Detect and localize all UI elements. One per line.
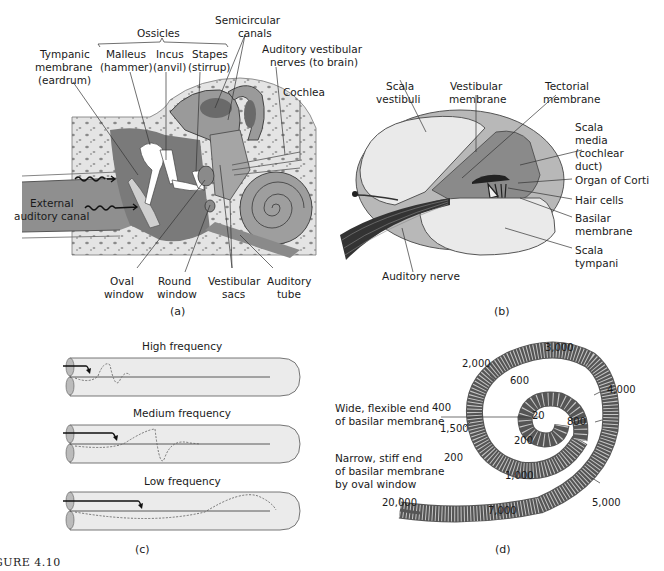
- label-scala-tympani-1: Scala: [575, 244, 603, 256]
- label-auditory-tube-2: tube: [277, 288, 301, 300]
- freq-800: 800: [567, 416, 586, 428]
- freq-400: 400: [432, 402, 451, 414]
- label-tympanic-2: membrane: [35, 61, 92, 73]
- label-malleus-2: (hammer): [100, 61, 153, 73]
- label-stapes-1: Stapes: [192, 48, 228, 60]
- label-auditory-nerve: Auditory nerve: [382, 270, 460, 282]
- label-low-frequency: Low frequency: [144, 475, 221, 487]
- label-medium-frequency: Medium frequency: [133, 407, 231, 419]
- label-vestibular-membrane-1: Vestibular: [450, 80, 502, 92]
- label-round-window-2: window: [157, 288, 197, 300]
- panel-d-letter: (d): [495, 543, 511, 556]
- label-oval-window-1: Oval: [110, 275, 134, 287]
- freq-1500: 1,500: [440, 423, 469, 435]
- label-vestibular-sacs-2: sacs: [222, 288, 245, 300]
- label-vestibular-sacs-1: Vestibular: [208, 275, 260, 287]
- freq-20000: 20,000: [382, 497, 417, 509]
- freq-20: 20: [532, 410, 545, 422]
- freq-2000: 2,000: [462, 358, 491, 370]
- label-basilar-membrane-1: Basilar: [575, 212, 611, 224]
- label-auditory-tube-1: Auditory: [267, 275, 312, 287]
- freq-200-outer: 200: [444, 452, 463, 464]
- label-semicircular-canals-1: Semicircular: [215, 14, 280, 26]
- freq-1000: 1,000: [505, 470, 534, 482]
- label-cochlea: Cochlea: [283, 86, 325, 98]
- label-narrow-end-3: by oval window: [335, 478, 416, 490]
- label-tectorial-2: membrane: [543, 93, 600, 105]
- label-wide-end-1: Wide, flexible end: [335, 402, 429, 414]
- label-tympanic-1: Tympanic: [40, 48, 90, 60]
- freq-600: 600: [510, 375, 529, 387]
- panel-c-letter: (c): [135, 543, 150, 556]
- freq-200-inner: 200: [514, 435, 533, 447]
- label-basilar-membrane-2: membrane: [575, 225, 632, 237]
- label-stapes-2: (stirrup): [188, 61, 230, 73]
- label-narrow-end-1: Narrow, stiff end: [335, 452, 422, 464]
- panel-b-letter: (b): [494, 305, 510, 318]
- label-hair-cells: Hair cells: [575, 194, 623, 206]
- basilar-spiral: [400, 350, 611, 516]
- label-malleus-1: Malleus: [106, 48, 146, 60]
- label-scala-media-4: duct): [575, 160, 602, 172]
- panel-a-letter: (a): [170, 305, 185, 318]
- label-semicircular-canals-2: canals: [238, 27, 272, 39]
- label-incus-2: (anvil): [153, 61, 186, 73]
- cochlea-cross-section: [340, 80, 582, 272]
- frequency-wave-tubes: [63, 358, 300, 530]
- freq-4000: 4,000: [607, 384, 636, 396]
- freq-5000: 5,000: [592, 497, 621, 509]
- label-wide-end-2: of basilar membrane: [335, 415, 444, 427]
- label-narrow-end-2: of basilar membrane: [335, 465, 444, 477]
- label-scala-media-2: media: [575, 134, 608, 146]
- label-tectorial-1: Tectorial: [545, 80, 589, 92]
- figure-id: GURE 4.10: [0, 556, 61, 569]
- label-organ-of-corti: Organ of Corti: [575, 174, 649, 186]
- label-scala-media-1: Scala: [575, 121, 603, 133]
- label-external-1: External: [30, 197, 74, 209]
- label-tympanic-3: (eardrum): [38, 74, 91, 86]
- label-incus-1: Incus: [156, 48, 184, 60]
- label-scala-vestibuli-1: Scala: [386, 80, 414, 92]
- label-scala-vestibuli-2: vestibuli: [376, 93, 420, 105]
- label-ossicles: Ossicles: [137, 27, 180, 39]
- label-round-window-1: Round: [158, 275, 191, 287]
- label-auditory-vestibular-2: nerves (to brain): [270, 56, 358, 68]
- freq-7000: 7,000: [488, 505, 517, 517]
- label-scala-tympani-2: tympani: [575, 257, 618, 269]
- freq-3000: 3,000: [545, 342, 574, 354]
- label-auditory-vestibular-1: Auditory vestibular: [262, 43, 362, 55]
- figure-caption: GURE 4.10: [0, 556, 61, 569]
- label-oval-window-2: window: [104, 288, 144, 300]
- label-high-frequency: High frequency: [142, 340, 222, 352]
- label-vestibular-membrane-2: membrane: [449, 93, 506, 105]
- label-external-2: auditory canal: [14, 210, 89, 222]
- label-scala-media-3: (cochlear: [575, 147, 624, 159]
